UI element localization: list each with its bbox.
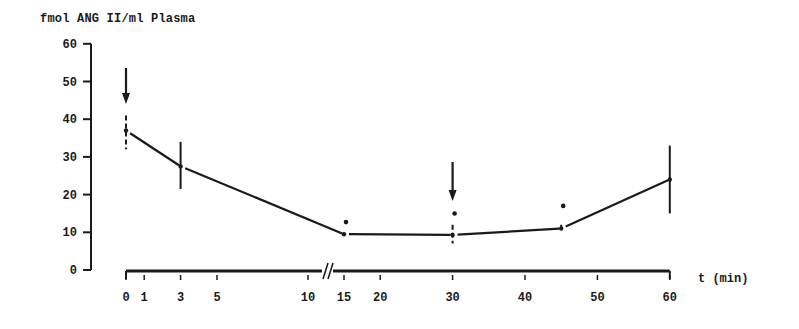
series-line-segment bbox=[349, 234, 451, 235]
axis-break-mark bbox=[328, 263, 333, 279]
x-tick-label: 60 bbox=[663, 291, 677, 305]
data-point bbox=[450, 233, 454, 237]
y-axis: 0102030405060 bbox=[63, 38, 91, 278]
data-point bbox=[124, 128, 128, 132]
down-arrow-icon bbox=[449, 190, 457, 201]
x-tick-label: 40 bbox=[518, 291, 532, 305]
chart-figure: fmol ANG II/ml Plasma 0102030405060 0135… bbox=[0, 0, 799, 329]
significance-marker bbox=[344, 220, 349, 225]
data-point bbox=[668, 177, 672, 181]
series-line-segment bbox=[130, 133, 179, 165]
x-tick-label: 5 bbox=[213, 291, 220, 305]
down-arrow-icon bbox=[122, 93, 130, 104]
line-chart: fmol ANG II/ml Plasma 0102030405060 0135… bbox=[0, 0, 799, 329]
x-tick-label: 50 bbox=[590, 291, 604, 305]
y-tick-label: 10 bbox=[63, 226, 77, 240]
y-tick-label: 30 bbox=[63, 151, 77, 165]
series-line-segment bbox=[458, 229, 560, 235]
y-tick-label: 0 bbox=[70, 264, 77, 278]
data-point bbox=[559, 226, 563, 230]
series-line-segment bbox=[566, 180, 668, 226]
data-point bbox=[342, 232, 346, 236]
x-tick-label: 30 bbox=[445, 291, 459, 305]
y-tick-label: 40 bbox=[63, 113, 77, 127]
y-tick-label: 20 bbox=[63, 189, 77, 203]
x-tick-label: 20 bbox=[373, 291, 387, 305]
significance-marker bbox=[452, 211, 457, 216]
y-axis-title: fmol ANG II/ml Plasma bbox=[40, 12, 195, 26]
significance-marker bbox=[561, 204, 566, 209]
x-axis-title: t (min) bbox=[698, 272, 748, 286]
series-line-segment bbox=[185, 168, 342, 233]
x-tick-label: 10 bbox=[301, 291, 315, 305]
x-tick-label: 0 bbox=[122, 291, 129, 305]
y-tick-label: 60 bbox=[63, 38, 77, 52]
x-axis: 013510152030405060 bbox=[122, 263, 677, 305]
y-tick-label: 50 bbox=[63, 76, 77, 90]
axis-break-mark bbox=[323, 263, 328, 279]
x-tick-label: 3 bbox=[177, 291, 184, 305]
data-point bbox=[178, 164, 182, 168]
data-series bbox=[124, 115, 672, 243]
annotations bbox=[122, 68, 566, 224]
x-tick-label: 15 bbox=[337, 291, 351, 305]
x-tick-label: 1 bbox=[141, 291, 148, 305]
